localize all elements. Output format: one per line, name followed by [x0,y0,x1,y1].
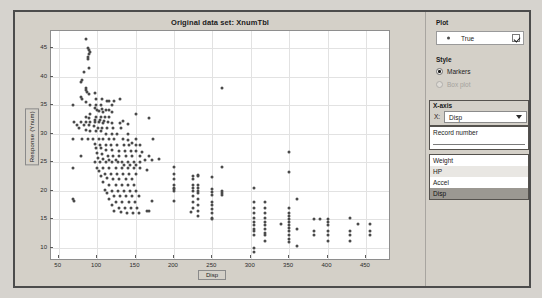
data-point [192,206,195,209]
data-point [71,166,74,169]
data-point [122,189,125,192]
dropdown-option[interactable]: HP [430,166,528,177]
data-point [263,206,266,209]
x-tick-label: 150 [123,262,147,268]
data-point [115,201,118,204]
x-tick-mark [288,255,289,258]
window-frame: Original data set: XnumTbl 1015202530354… [13,10,531,288]
chevron-down-icon[interactable] [516,115,522,119]
data-point [326,223,329,226]
plot-group-label: Plot [436,19,448,26]
data-point [106,126,109,129]
data-point [295,197,298,200]
data-point [357,222,360,225]
dropdown-header-section[interactable]: Record number [429,126,529,150]
data-point [252,206,255,209]
data-point [111,110,114,113]
data-point [139,161,142,164]
scatter-plot-area[interactable] [50,30,390,260]
data-point [96,151,99,154]
data-point [252,201,255,204]
plot-legend-row[interactable]: True [436,31,524,45]
dropdown-option[interactable]: Accel [430,177,528,188]
style-radio-markers[interactable]: Markers [436,68,470,75]
data-point [93,125,96,128]
style-radio-boxplot: Box plot [436,81,471,88]
data-point [122,144,125,147]
data-point [288,240,291,243]
data-point [121,201,124,204]
chart-panel: Original data set: XnumTbl 1015202530354… [15,12,425,286]
data-point [96,156,99,159]
data-point [117,149,120,152]
data-point [116,189,119,192]
data-point [192,195,195,198]
data-point [71,138,74,141]
chart-title: Original data set: XnumTbl [15,18,425,27]
data-point [106,120,109,123]
data-point [348,239,351,242]
data-point [88,116,91,119]
data-point [263,223,266,226]
data-point [126,139,129,142]
y-tick-label: 20 [29,187,47,193]
data-point [94,129,97,132]
data-point [368,222,371,225]
data-point [368,229,371,232]
data-point [99,147,102,150]
data-point [220,166,223,169]
dropdown-item-record-number[interactable]: Record number [433,129,478,136]
data-point [110,161,113,164]
data-point [127,144,130,147]
data-point [192,178,195,181]
data-point [128,172,131,175]
dropdown-option[interactable]: Weight [430,155,528,166]
plot-visibility-checkbox[interactable] [512,34,520,42]
data-point [88,67,91,70]
x-tick-mark [211,255,212,258]
data-point [150,200,153,203]
gridline-vertical [174,31,175,259]
data-point [137,195,140,198]
gridline-vertical [59,31,60,259]
y-tick-label: 40 [29,73,47,79]
x-axis-dropdown-list[interactable]: WeightHPAccelDisp [429,154,529,200]
x-tick-mark [327,255,328,258]
data-point [110,132,113,135]
x-tick-mark [365,255,366,258]
data-point [288,229,291,232]
data-point [120,166,123,169]
data-point [114,166,117,169]
data-point [99,161,102,164]
data-point [129,149,132,152]
data-point [116,144,119,147]
data-point [172,189,175,192]
data-point [99,115,102,118]
data-point [135,149,138,152]
data-point [172,172,175,175]
data-point [211,207,214,210]
data-point [135,112,138,115]
data-point [116,132,119,135]
data-point [86,57,89,60]
data-point [83,71,86,74]
data-point [144,158,147,161]
gridline-vertical [366,31,367,259]
dropdown-option[interactable]: Disp [430,188,528,199]
radio-markers-icon [436,68,443,75]
gridline-horizontal [51,219,389,220]
data-point [280,222,283,225]
data-point [211,176,214,179]
data-point [126,183,129,186]
x-axis-combobox[interactable]: Disp [444,111,527,123]
x-tick-mark [173,255,174,258]
data-point [77,127,80,130]
data-point [102,110,105,113]
y-tick-mark [50,47,53,48]
data-point [126,212,129,215]
data-point [89,112,92,115]
data-point [112,126,115,129]
data-point [211,218,214,221]
data-point [313,234,316,237]
data-point [104,144,107,147]
